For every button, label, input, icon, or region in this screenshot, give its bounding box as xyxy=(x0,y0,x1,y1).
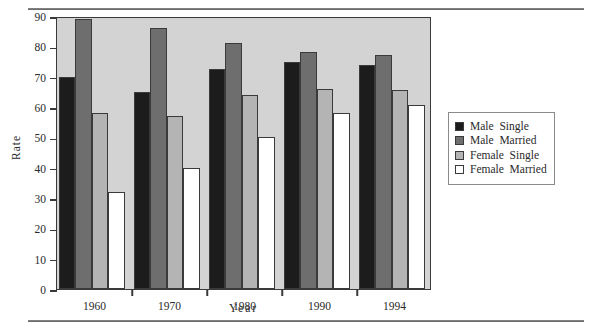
legend-item: Female Married xyxy=(455,163,547,176)
y-axis-tick xyxy=(50,48,57,50)
bar xyxy=(392,90,409,289)
chart-legend: Male SingleMale MarriedFemale SingleFema… xyxy=(448,112,555,185)
legend-item: Female Single xyxy=(455,149,547,162)
legend-item-label: Female Single xyxy=(470,149,539,162)
y-axis-tick xyxy=(50,199,57,201)
bar xyxy=(134,92,151,289)
legend-swatch-icon xyxy=(455,165,464,174)
y-axis-tick xyxy=(50,230,57,232)
bar xyxy=(167,116,184,289)
y-axis-title: Rate xyxy=(10,135,22,160)
bar xyxy=(408,105,425,289)
y-axis-tick xyxy=(50,260,57,262)
bar xyxy=(359,65,376,289)
y-axis-tick-label: 60 xyxy=(35,103,47,115)
bar xyxy=(284,62,301,290)
legend-item-label: Male Married xyxy=(470,134,536,147)
legend-swatch-icon xyxy=(455,122,464,131)
bar xyxy=(209,69,226,289)
x-axis-tick xyxy=(131,289,133,296)
bar xyxy=(258,137,275,289)
x-axis-tick xyxy=(281,289,283,296)
y-axis-tick-label: 40 xyxy=(35,164,47,176)
bar xyxy=(108,192,125,289)
legend-item-label: Female Married xyxy=(470,163,547,176)
bar xyxy=(92,113,109,289)
bar xyxy=(225,43,242,289)
y-axis-tick-label: 50 xyxy=(35,134,47,146)
bar xyxy=(75,19,92,289)
bar xyxy=(183,168,200,289)
y-axis-tick xyxy=(50,108,57,110)
figure-page: Rate 01020304050607080901960197019801990… xyxy=(0,0,590,332)
bar xyxy=(300,52,317,289)
x-axis-title: Year xyxy=(56,302,431,314)
bar xyxy=(317,89,334,289)
y-axis-tick xyxy=(50,290,57,292)
legend-swatch-icon xyxy=(455,136,464,145)
bar xyxy=(150,28,167,289)
y-axis-tick xyxy=(50,169,57,171)
legend-swatch-icon xyxy=(455,151,464,160)
y-axis-tick xyxy=(50,139,57,141)
bar xyxy=(242,95,259,289)
legend-item: Male Married xyxy=(455,134,547,147)
legend-item-label: Male Single xyxy=(470,120,529,133)
y-axis-tick-label: 10 xyxy=(35,255,47,267)
bar-chart-figure: Rate 01020304050607080901960197019801990… xyxy=(0,0,590,332)
bar xyxy=(59,77,76,289)
bar xyxy=(375,55,392,289)
y-axis-tick-label: 0 xyxy=(40,285,46,297)
y-axis-tick-label: 30 xyxy=(35,194,47,206)
legend-item: Male Single xyxy=(455,120,547,133)
y-axis-tick xyxy=(50,17,57,19)
y-axis-tick-label: 80 xyxy=(35,43,47,55)
x-axis-tick xyxy=(356,289,358,296)
y-axis-tick-label: 90 xyxy=(35,12,47,24)
y-axis-tick-label: 70 xyxy=(35,73,47,85)
y-axis-tick xyxy=(50,78,57,80)
plot-area: 010203040506070809019601970198019901994 xyxy=(56,17,431,290)
bar xyxy=(333,113,350,289)
y-axis-tick-label: 20 xyxy=(35,225,47,237)
x-axis-tick xyxy=(206,289,208,296)
